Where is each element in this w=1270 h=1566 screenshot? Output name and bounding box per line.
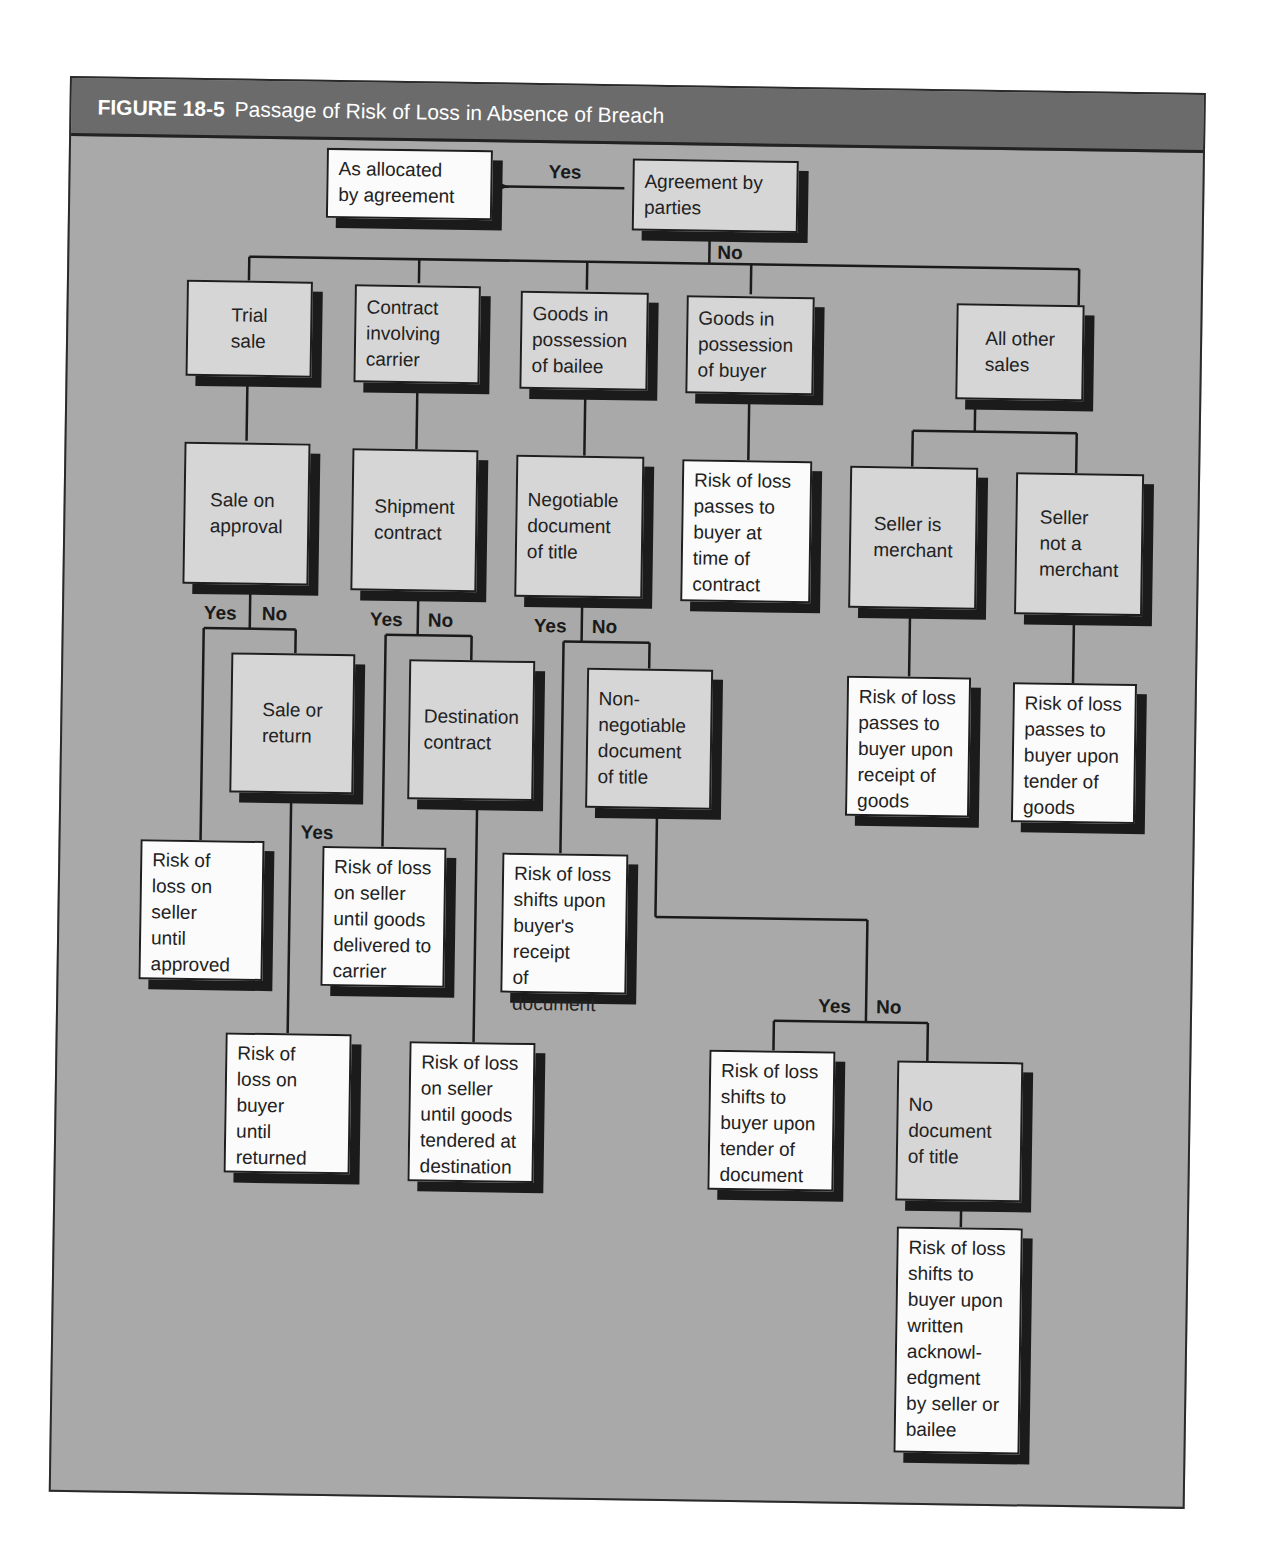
node-tender-of-goods: Risk of loss passes to buyer upon tender… — [1011, 682, 1137, 824]
node-text: Risk of loss shifts to buyer upon tender… — [719, 1058, 823, 1190]
label-yes: Yes — [534, 615, 567, 637]
node-text: Destination contract — [423, 703, 519, 756]
node-buyer-receipt-document: Risk of loss shifts upon buyer's receipt… — [500, 853, 628, 995]
node-text: Seller is merchant — [873, 511, 953, 564]
node-text: Risk of loss passes to buyer upon tender… — [1023, 690, 1125, 821]
label-no: No — [592, 616, 618, 638]
node-no-document-of-title: No document of title — [895, 1061, 1023, 1203]
label-yes: Yes — [204, 602, 237, 624]
node-non-negotiable-document: Non- negotiable document of title — [585, 668, 713, 810]
node-text: Risk of loss passes to buyer upon receip… — [857, 684, 959, 815]
node-written-acknowledgment: Risk of loss shifts to buyer upon writte… — [893, 1227, 1022, 1455]
node-as-allocated: As allocated by agreement — [326, 148, 493, 220]
node-text: Non- negotiable document of title — [597, 686, 701, 792]
node-all-other-sales: All other sales — [955, 303, 1084, 401]
node-contract-carrier: Contract involving carrier — [353, 284, 480, 384]
node-tender-of-document: Risk of loss shifts to buyer upon tender… — [707, 1050, 835, 1192]
node-seller-until-approved: Risk of loss on seller until approved — [138, 839, 264, 981]
node-goods-buyer: Goods in possession of buyer — [685, 295, 814, 395]
node-text: Sale or return — [262, 697, 323, 750]
node-text: No document of title — [908, 1092, 1011, 1172]
node-receipt-of-goods: Risk of loss passes to buyer upon receip… — [845, 676, 971, 818]
node-seller-until-carrier: Risk of loss on seller until goods deliv… — [320, 846, 446, 988]
label-yes: Yes — [548, 161, 581, 183]
node-buyer-time-of-contract: Risk of loss passes to buyer at time of … — [680, 459, 812, 603]
node-text: Risk of loss shifts upon buyer's receipt… — [512, 861, 616, 1019]
node-text: Shipment contract — [374, 494, 455, 547]
node-text: Seller not a merchant — [1039, 505, 1119, 584]
node-seller-not-merchant: Seller not a merchant — [1014, 472, 1144, 616]
node-text: As allocated by agreement — [338, 156, 481, 210]
node-text: Risk of loss on seller until goods deliv… — [332, 854, 434, 985]
node-destination-contract: Destination contract — [407, 659, 535, 801]
node-goods-bailee: Goods in possession of bailee — [519, 291, 648, 391]
node-text: Risk of loss on buyer until returned — [236, 1041, 340, 1173]
node-buyer-until-returned: Risk of loss on buyer until returned — [224, 1032, 352, 1174]
label-no: No — [717, 242, 743, 264]
node-text: Risk of loss on seller until goods tende… — [419, 1049, 523, 1181]
node-text: Goods in possession of buyer — [697, 305, 802, 385]
node-text: Negotiable document of title — [527, 487, 632, 567]
label-no: No — [262, 603, 288, 625]
node-sale-on-approval: Sale on approval — [182, 442, 310, 586]
node-text: Risk of loss on seller until approved — [150, 847, 252, 978]
node-text: Risk of loss passes to buyer at time of … — [692, 467, 800, 599]
node-text: Agreement by parties — [644, 169, 787, 223]
node-text: Risk of loss shifts to buyer upon writte… — [906, 1235, 1011, 1445]
node-text: Trial sale — [231, 302, 268, 355]
label-yes: Yes — [370, 609, 403, 631]
node-seller-is-merchant: Seller is merchant — [848, 466, 978, 610]
node-text: Goods in possession of bailee — [532, 301, 637, 381]
node-text: All other sales — [985, 326, 1055, 379]
label-yes: Yes — [301, 822, 334, 844]
node-trial-sale: Trial sale — [186, 280, 313, 378]
label-yes: Yes — [818, 995, 851, 1017]
node-text: Contract involving carrier — [366, 294, 469, 374]
figure-frame: FIGURE 18-5Passage of Risk of Loss in Ab… — [49, 76, 1206, 1509]
label-no: No — [428, 609, 454, 631]
node-agreement-by-parties: Agreement by parties — [632, 158, 799, 232]
label-no: No — [876, 996, 902, 1018]
node-shipment-contract: Shipment contract — [350, 448, 478, 592]
node-seller-until-destination: Risk of loss on seller until goods tende… — [407, 1041, 535, 1183]
node-sale-or-return: Sale or return — [229, 652, 355, 794]
flowchart: As allocated by agreement Agreement by p… — [51, 78, 1208, 1511]
node-negotiable-document: Negotiable document of title — [514, 455, 644, 599]
node-text: Sale on approval — [210, 487, 284, 540]
